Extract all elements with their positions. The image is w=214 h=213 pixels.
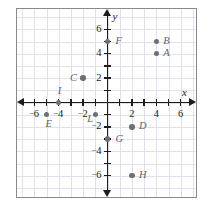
x-tick-label: 2 (121, 109, 143, 120)
x-axis-tick (180, 99, 181, 106)
point-label-h: H (139, 170, 147, 181)
x-tick-label: –6 (23, 109, 45, 120)
y-tick-label: –6 (80, 170, 102, 181)
y-axis-tick (104, 53, 111, 54)
x-axis-name: x (182, 86, 187, 98)
x-axis-tick (143, 99, 144, 106)
y-axis-tick (104, 29, 111, 30)
point-label-b: B (163, 36, 169, 47)
point-label-c: C (70, 73, 77, 84)
y-axis-arrow-up (103, 9, 111, 16)
y-tick-label: 4 (80, 48, 102, 59)
coordinate-plane-figure: –6–4–2246–6–4–2246xyABCDEFGHIL (0, 0, 214, 213)
data-point-d[interactable] (129, 124, 135, 130)
x-axis-tick (119, 99, 120, 106)
data-point-i[interactable] (56, 100, 62, 106)
point-label-g: G (116, 134, 124, 145)
x-axis-tick (156, 99, 157, 106)
data-point-f[interactable] (105, 39, 111, 45)
x-axis-tick (46, 99, 47, 106)
x-axis-tick (70, 99, 71, 106)
y-axis-tick (104, 163, 111, 164)
x-axis-tick (34, 99, 35, 106)
x-tick-label: 6 (170, 109, 192, 120)
y-axis-tick (104, 114, 111, 115)
data-point-l[interactable] (93, 112, 99, 118)
x-axis-arrow-right (189, 98, 196, 106)
y-axis-arrow-down (103, 190, 111, 197)
y-axis-tick (104, 65, 111, 66)
point-label-e: E (46, 119, 52, 130)
data-point-a[interactable] (154, 51, 160, 57)
y-axis-name: y (113, 10, 118, 22)
x-axis-tick (82, 99, 83, 106)
data-point-c[interactable] (80, 75, 86, 81)
x-axis-tick (131, 99, 132, 106)
x-tick-label: 4 (145, 109, 167, 120)
y-tick-label: 6 (80, 24, 102, 35)
data-point-b[interactable] (154, 39, 160, 45)
y-axis-tick (104, 90, 111, 91)
plot-frame: –6–4–2246–6–4–2246xyABCDEFGHIL (16, 8, 197, 198)
x-axis-tick (95, 99, 96, 106)
y-axis-tick (104, 175, 111, 176)
y-axis-tick (104, 151, 111, 152)
data-point-g[interactable] (105, 136, 111, 142)
point-label-i: I (58, 86, 62, 97)
x-axis-arrow-left (17, 98, 24, 106)
point-label-f: F (116, 36, 122, 47)
data-point-h[interactable] (129, 173, 135, 179)
point-label-d: D (139, 121, 147, 132)
y-axis-tick (104, 126, 111, 127)
x-axis-tick (168, 99, 169, 106)
y-tick-label: –4 (80, 146, 102, 157)
point-label-l: L (87, 114, 93, 125)
y-axis-tick (104, 77, 111, 78)
point-label-a: A (163, 48, 169, 59)
